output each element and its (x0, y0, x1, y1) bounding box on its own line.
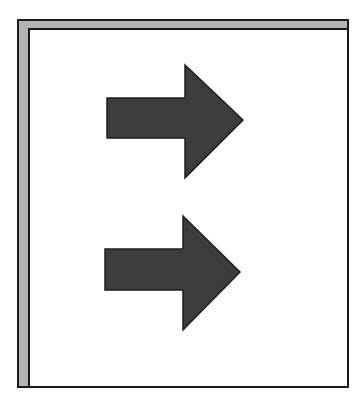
right-arrow-icon (107, 65, 243, 178)
right-arrow-icon (105, 216, 240, 330)
arrows-canvas (0, 0, 363, 406)
